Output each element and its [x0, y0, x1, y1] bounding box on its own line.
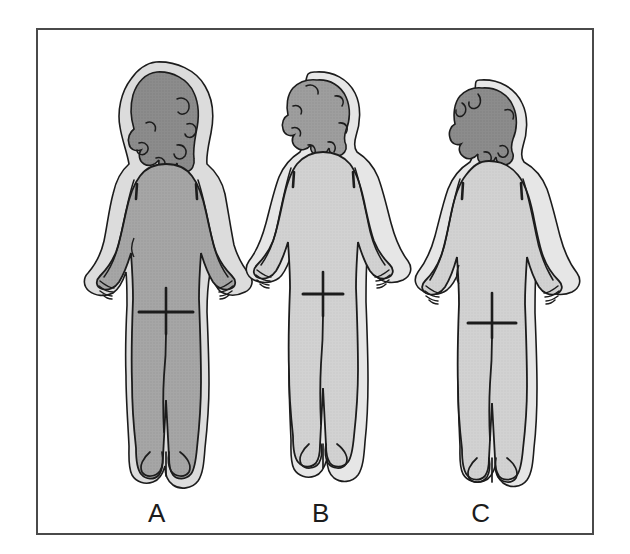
figure-a-hair [128, 72, 198, 172]
figure-label-c: C [461, 500, 501, 526]
subject-figure-b [246, 72, 410, 482]
figure-label-b: B [301, 500, 341, 526]
body-figures-canvas [0, 0, 630, 554]
subject-figure-a [84, 62, 252, 488]
figure-label-a: A [137, 500, 177, 526]
figure-c-hair [449, 88, 516, 165]
subject-figure-c [415, 80, 579, 487]
illustration-page: A B C [0, 0, 630, 554]
figure-b-hair [282, 80, 349, 156]
